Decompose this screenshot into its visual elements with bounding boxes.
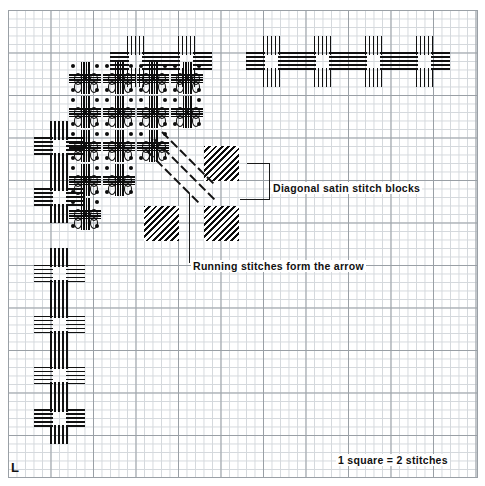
- knot-stitch-motif: [68, 95, 102, 129]
- knot-stitch-motif: [170, 95, 204, 129]
- leader-satin-vertical: [269, 163, 270, 200]
- knot-stitch-motif: [68, 163, 102, 197]
- grid-left-edge: [8, 10, 9, 478]
- cross-stitch-motif: [246, 36, 297, 87]
- diagonal-satin-stitch-block: [144, 206, 179, 241]
- leader-running-vertical: [189, 193, 190, 263]
- label-scale-key: 1 square = 2 stitches: [336, 454, 450, 466]
- knot-stitch-motif: [102, 61, 136, 95]
- corner-marker-letter: L: [11, 460, 19, 475]
- cross-stitch-motif: [348, 36, 399, 87]
- leader-satin-top: [247, 163, 270, 164]
- cross-stitch-motif: [34, 393, 85, 444]
- knot-stitch-motif: [102, 129, 136, 163]
- knot-stitch-motif: [68, 61, 102, 95]
- knot-stitch-motif: [170, 61, 204, 95]
- diagonal-satin-stitch-block: [204, 146, 239, 181]
- knot-stitch-motif: [102, 95, 136, 129]
- label-running-stitches: Running stitches form the arrow: [191, 260, 366, 272]
- pattern-chart-root: Diagonal satin stitch blocks Running sti…: [0, 0, 485, 486]
- label-satin-blocks: Diagonal satin stitch blocks: [271, 182, 422, 194]
- cross-stitch-motif: [399, 36, 450, 87]
- knot-stitch-motif: [102, 163, 136, 197]
- knot-stitch-motif: [136, 95, 170, 129]
- cross-stitch-motif: [297, 36, 348, 87]
- leader-satin-bottom: [240, 199, 270, 200]
- grid-top-edge: [8, 10, 478, 11]
- knot-stitch-motif: [68, 197, 102, 231]
- knot-stitch-motif: [136, 61, 170, 95]
- knot-stitch-motif: [68, 129, 102, 163]
- cross-stitch-motif: [34, 299, 85, 350]
- diagonal-satin-stitch-block: [204, 206, 239, 241]
- cross-stitch-motif: [34, 248, 85, 299]
